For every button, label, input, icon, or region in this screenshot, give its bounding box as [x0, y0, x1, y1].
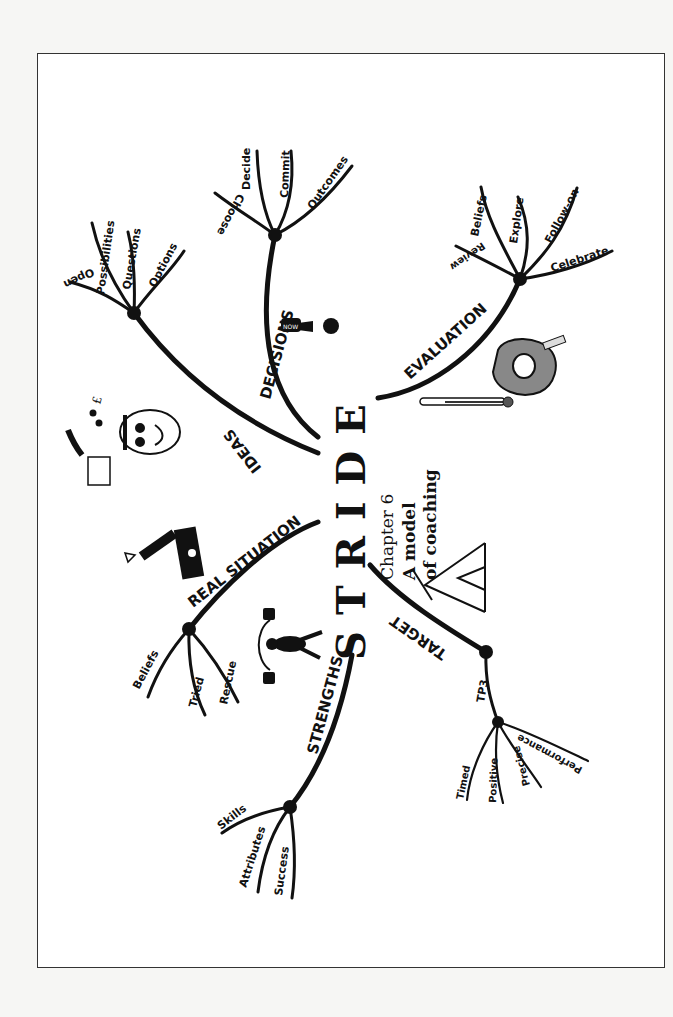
- decisions-node: [268, 228, 282, 242]
- exclamation-now-icon: NOW: [281, 318, 339, 334]
- thinking-person-icon: £: [68, 395, 180, 485]
- leaf-label: Tried: [186, 676, 207, 709]
- leaf-label: Decide: [240, 148, 253, 190]
- subtitle-line1: A model: [399, 502, 419, 581]
- leaf-label: Beliefs: [130, 648, 161, 692]
- real-situation-label: REAL SITUATION: [184, 512, 304, 611]
- leaf-label: Explore: [507, 196, 526, 244]
- chapter-number: Chapter 6: [377, 494, 397, 580]
- leaf-label: Beliefs: [468, 193, 490, 237]
- leaf-label: Celebrate: [549, 244, 610, 275]
- tp3-label: TP3: [474, 678, 491, 703]
- leaf-label: Open: [61, 265, 96, 291]
- stride-mind-map: STRIDE Chapter 6 A model of coaching STR…: [0, 0, 673, 1017]
- leaf-label: Review: [448, 240, 487, 272]
- real-situation-branch: [189, 522, 318, 629]
- leaf-label: Questions: [120, 227, 144, 291]
- real-situation-node: [182, 622, 196, 636]
- leaf-label: NOW: [283, 323, 298, 330]
- leaf-label: Choose: [214, 192, 247, 238]
- leaf-label: Positive: [487, 757, 500, 803]
- stride-title: STRIDE: [327, 388, 374, 660]
- microscope-icon: [125, 526, 204, 579]
- leaf-label: Commit: [278, 150, 293, 198]
- leaf-label: Follow-on: [542, 186, 582, 245]
- target-node: [479, 645, 493, 659]
- thermometer-icon: [420, 397, 513, 407]
- target-label: TARGET: [386, 611, 450, 663]
- weightlifter-icon: [259, 608, 322, 684]
- evaluation-node: [513, 272, 527, 286]
- leaf-label: £: [89, 395, 105, 406]
- ideas-label: IDEAS: [220, 426, 265, 477]
- subtitle-line2: of coaching: [420, 469, 440, 580]
- tape-measure-icon: [493, 335, 566, 394]
- leaf-label: Outcomes: [305, 153, 351, 212]
- leaf-label: Success: [272, 845, 292, 896]
- strengths-node: [283, 800, 297, 814]
- ideas-node: [127, 306, 141, 320]
- tp3-node: [492, 716, 504, 728]
- leaf-label: Precise: [511, 745, 532, 788]
